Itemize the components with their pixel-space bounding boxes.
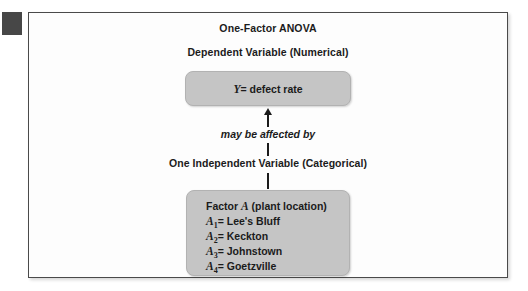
figure-stage: One-Factor ANOVA Dependent Variable (Num… — [0, 0, 528, 291]
affected-by-label: may be affected by — [221, 128, 315, 141]
arrow-up-icon — [263, 108, 274, 127]
factor-level-1: A1= Lee's Bluff — [206, 214, 280, 229]
dependent-variable-label: Dependent Variable (Numerical) — [187, 46, 348, 59]
factor-box: Factor A (plant location) A1= Lee's Bluf… — [186, 190, 350, 276]
factor-heading-symbol: A — [241, 200, 249, 212]
connector-stem — [267, 173, 269, 189]
factor-level-3: A3= Johnstown — [206, 244, 282, 259]
independent-variable-label: One Independent Variable (Categorical) — [169, 157, 367, 170]
factor-level-3-symbol: A — [206, 245, 214, 257]
page-edge-marker — [2, 12, 22, 35]
response-variable-box: Y= defect rate — [185, 71, 351, 106]
figure-panel: One-Factor ANOVA Dependent Variable (Num… — [28, 12, 508, 278]
factor-level-3-relation: = Johnstown — [218, 245, 282, 257]
factor-level-4-symbol: A — [206, 260, 214, 272]
factor-level-4: A4= Goetzville — [206, 259, 276, 274]
figure-content: One-Factor ANOVA Dependent Variable (Num… — [29, 13, 507, 277]
factor-level-2-symbol: A — [206, 230, 214, 242]
factor-heading-suffix: (plant location) — [249, 200, 327, 212]
factor-heading: Factor A (plant location) — [206, 199, 327, 214]
factor-level-4-relation: = Goetzville — [218, 260, 277, 272]
factor-level-2: A2= Keckton — [206, 229, 268, 244]
factor-level-2-relation: = Keckton — [218, 230, 268, 242]
figure-title: One-Factor ANOVA — [219, 22, 316, 35]
arrow-stem — [267, 113, 269, 127]
response-variable-text: Y= defect rate — [233, 83, 302, 95]
connector-stem — [267, 143, 269, 156]
factor-level-1-symbol: A — [206, 215, 214, 227]
connector-line-upper — [263, 143, 274, 156]
response-relation: = defect rate — [240, 83, 302, 95]
factor-level-1-relation: = Lee's Bluff — [218, 215, 280, 227]
factor-heading-prefix: Factor — [206, 200, 241, 212]
connector-line-lower — [263, 173, 274, 189]
